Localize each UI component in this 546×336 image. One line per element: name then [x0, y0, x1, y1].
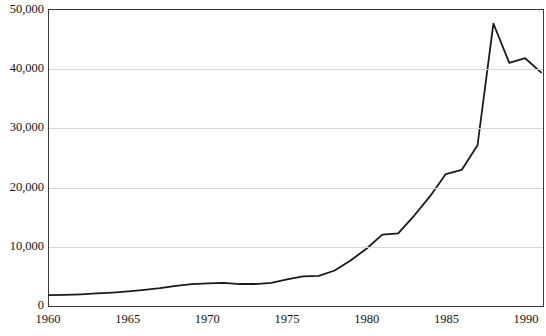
- y-tick-label-40000: 40,000: [0, 62, 44, 75]
- gridline-y-10000: [49, 247, 543, 248]
- y-tick-label-10000: 10,000: [0, 240, 44, 253]
- x-tick-label-1975: 1975: [275, 313, 300, 326]
- x-tick-label-1980: 1980: [354, 313, 379, 326]
- x-axis-tick-labels: 1960196519701975198019851990: [0, 310, 546, 336]
- line-chart: 50,00040,00030,00020,00010,0000 19601965…: [0, 0, 546, 336]
- x-tick-label-1965: 1965: [115, 313, 140, 326]
- x-tick-label-1985: 1985: [434, 313, 459, 326]
- data-line-layer: [49, 10, 543, 306]
- y-tick-label-50000: 50,000: [0, 3, 44, 16]
- gridline-y-20000: [49, 188, 543, 189]
- y-axis-tick-labels: 50,00040,00030,00020,00010,0000: [0, 0, 44, 336]
- x-tick-label-1970: 1970: [195, 313, 220, 326]
- gridline-y-40000: [49, 69, 543, 70]
- plot-area: [48, 9, 544, 307]
- gridline-y-30000: [49, 128, 543, 129]
- data-line-series-1: [49, 24, 541, 296]
- y-tick-label-20000: 20,000: [0, 180, 44, 193]
- x-tick-label-1990: 1990: [514, 313, 539, 326]
- x-tick-label-1960: 1960: [36, 313, 61, 326]
- y-tick-label-30000: 30,000: [0, 121, 44, 134]
